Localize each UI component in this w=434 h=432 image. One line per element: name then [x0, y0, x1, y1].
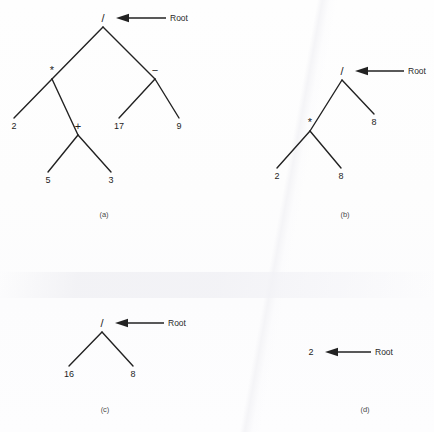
figure-canvas: Root/*−2+17953(a)Root/*828(b)Root/168(c)…	[0, 0, 434, 432]
tree-node-a-left-mul: *	[50, 65, 54, 76]
tree-edge-a-left-mul-leaf-2	[14, 79, 52, 118]
tree-node-b-mul: *	[308, 117, 312, 128]
tree-node-b-leaf-2: 2	[274, 172, 279, 181]
tree-node-c-leaf-16: 16	[64, 370, 74, 379]
tree-edge-a-root-left-mul	[52, 27, 103, 79]
tree-edge-a-right-sub-leaf-17	[119, 79, 155, 118]
tree-node-a-root: /	[101, 13, 104, 24]
tree-node-a-leaf-5: 5	[45, 176, 50, 185]
root-pointer-label-c: Root	[168, 319, 186, 328]
tree-node-d-root: 2	[308, 348, 313, 357]
tree-edge-b-mul-leaf-8-l	[310, 131, 341, 168]
root-arrow-head-c	[115, 319, 128, 327]
root-arrow-head-d	[325, 348, 338, 356]
tree-edge-c-root-leaf-8	[102, 332, 133, 366]
panel-caption-d: (d)	[360, 406, 369, 414]
tree-node-a-leaf-9: 9	[176, 122, 181, 131]
panel-caption-a: (a)	[99, 211, 108, 219]
root-pointer-label-a: Root	[170, 14, 188, 23]
tree-node-a-leaf-17: 17	[114, 122, 124, 131]
tree-edge-a-add-leaf-3	[78, 135, 111, 172]
tree-node-b-root: /	[340, 66, 343, 77]
tree-node-c-root: /	[100, 318, 103, 329]
root-pointer-label-d: Root	[375, 348, 393, 357]
tree-edge-b-root-leaf-8-r	[342, 80, 374, 114]
root-pointer-label-b: Root	[408, 67, 426, 76]
tree-node-b-leaf-8-r: 8	[371, 118, 376, 127]
root-arrow-head-b	[355, 67, 368, 75]
tree-edge-a-right-sub-leaf-9	[155, 79, 179, 118]
tree-edge-b-root-mul	[310, 80, 342, 131]
panel-caption-c: (c)	[101, 406, 110, 414]
tree-node-a-leaf-2: 2	[11, 122, 16, 131]
tree-node-c-leaf-8: 8	[130, 370, 135, 379]
root-arrow-head-a	[116, 14, 129, 22]
tree-node-b-leaf-8-l: 8	[338, 172, 343, 181]
tree-edge-c-root-leaf-16	[69, 332, 102, 366]
tree-edge-a-add-leaf-5	[48, 135, 78, 172]
panel-caption-b: (b)	[340, 211, 349, 219]
tree-node-a-add: +	[75, 121, 81, 132]
expression-tree-edges	[0, 0, 434, 432]
tree-node-a-leaf-3: 3	[108, 176, 113, 185]
tree-edge-a-root-right-sub	[103, 27, 155, 79]
tree-edge-b-mul-leaf-2	[277, 131, 310, 168]
tree-node-a-right-sub: −	[152, 65, 158, 76]
